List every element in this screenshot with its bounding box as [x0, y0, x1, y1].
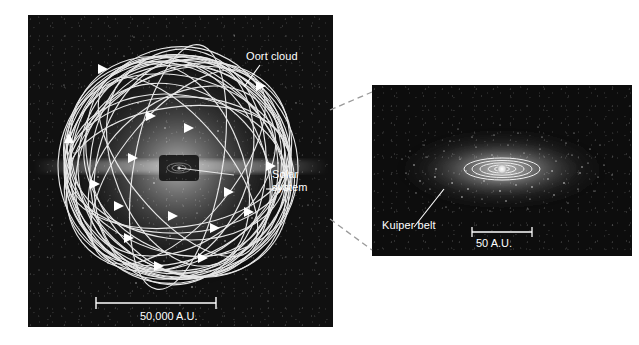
- central-star: [497, 164, 508, 175]
- scale-label-kuiper: 50 A.U.: [476, 237, 512, 249]
- label-solar-system: Solar system: [272, 168, 307, 193]
- label-kuiper-belt: Kuiper belt: [382, 219, 436, 232]
- figure-stage: Oort cloud Solar system 50,000 A.U. Kuip…: [0, 0, 639, 345]
- label-solar-system-line2: system: [272, 181, 307, 194]
- scale-label-oort: 50,000 A.U.: [140, 310, 198, 322]
- label-solar-system-line1: Solar: [272, 168, 307, 181]
- connector-line-top: [330, 92, 372, 110]
- label-oort-cloud: Oort cloud: [246, 50, 298, 63]
- connector-line-bottom: [330, 219, 372, 250]
